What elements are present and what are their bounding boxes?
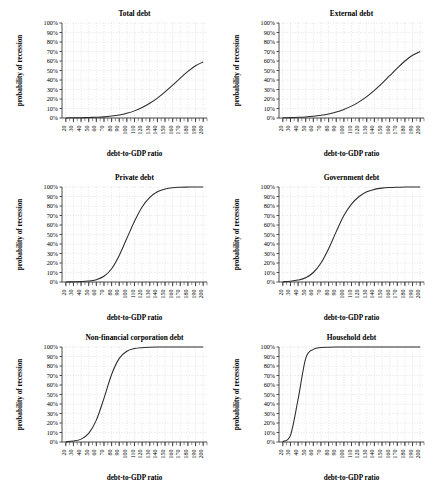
x-tick-label: 180: [183, 126, 189, 135]
x-tick-label: 40: [293, 126, 299, 132]
x-tick-label: 120: [354, 126, 360, 135]
x-tick-label: 30: [285, 126, 291, 132]
y-tick-label: 70%: [47, 372, 58, 379]
x-tick-label: 130: [362, 290, 368, 299]
y-tick-label: 20%: [264, 259, 275, 266]
y-tick-label: 40%: [264, 400, 275, 407]
x-tick-label: 30: [68, 290, 74, 296]
x-tick-label: 140: [152, 290, 158, 299]
x-tick-label: 130: [362, 126, 368, 135]
y-tick-label: 60%: [264, 57, 275, 64]
y-tick-label: 40%: [47, 76, 58, 83]
x-tick-label: 190: [408, 126, 414, 135]
x-tick-label: 60: [308, 450, 314, 456]
y-tick-label: 40%: [47, 240, 58, 247]
x-tick-label: 30: [285, 290, 291, 296]
x-tick-label: 70: [316, 290, 322, 296]
x-tick-label: 130: [362, 450, 368, 459]
x-tick-label: 20: [61, 126, 67, 132]
x-axis-title: debt-to-GDP ratio: [107, 314, 163, 322]
x-tick-label: 20: [278, 290, 284, 296]
y-tick-label: 20%: [264, 419, 275, 426]
x-tick-label: 110: [130, 290, 136, 299]
y-tick-label: 70%: [47, 212, 58, 219]
y-tick-label: 100%: [44, 343, 58, 350]
x-tick-label: 80: [107, 450, 113, 456]
x-tick-label: 60: [308, 126, 314, 132]
panel-title: Non-financial corporation debt: [85, 333, 184, 342]
x-tick-label: 70: [99, 126, 105, 132]
x-tick-label: 100: [339, 450, 345, 459]
x-tick-label: 80: [324, 126, 330, 132]
x-tick-label: 40: [76, 126, 82, 132]
y-tick-label: 40%: [47, 400, 58, 407]
x-axis-title: debt-to-GDP ratio: [324, 474, 380, 482]
y-tick-label: 20%: [47, 259, 58, 266]
y-tick-label: 60%: [264, 381, 275, 388]
x-tick-label: 60: [91, 450, 97, 456]
x-tick-label: 160: [385, 290, 391, 299]
x-tick-label: 100: [339, 290, 345, 299]
x-tick-label: 170: [392, 290, 398, 299]
x-tick-label: 170: [392, 126, 398, 135]
y-tick-label: 10%: [264, 269, 275, 276]
y-tick-label: 60%: [264, 221, 275, 228]
y-axis-title: probability of recession: [16, 35, 24, 107]
y-tick-label: 30%: [264, 250, 275, 257]
y-tick-label: 30%: [47, 410, 58, 417]
x-tick-label: 190: [408, 290, 414, 299]
y-tick-label: 60%: [47, 221, 58, 228]
x-tick-label: 190: [408, 450, 414, 459]
y-tick-label: 0%: [50, 114, 58, 121]
x-tick-label: 70: [99, 450, 105, 456]
x-tick-label: 40: [76, 450, 82, 456]
x-tick-label: 150: [377, 126, 383, 135]
x-tick-label: 200: [415, 290, 421, 299]
chart-panel: 0%10%20%30%40%50%60%70%80%90%100%2030405…: [0, 324, 217, 492]
x-tick-label: 150: [377, 450, 383, 459]
y-tick-label: 20%: [47, 419, 58, 426]
x-tick-label: 30: [68, 450, 74, 456]
x-tick-label: 30: [285, 450, 291, 456]
x-tick-label: 170: [175, 126, 181, 135]
x-tick-label: 180: [183, 450, 189, 459]
y-tick-label: 90%: [47, 29, 58, 36]
x-tick-label: 160: [168, 126, 174, 135]
x-tick-label: 50: [84, 450, 90, 456]
y-tick-label: 100%: [261, 343, 275, 350]
y-tick-label: 0%: [267, 114, 275, 121]
x-tick-label: 90: [114, 126, 120, 132]
x-tick-label: 90: [331, 126, 337, 132]
y-tick-label: 30%: [264, 410, 275, 417]
x-tick-label: 50: [301, 126, 307, 132]
x-tick-label: 200: [198, 126, 204, 135]
y-tick-label: 10%: [47, 429, 58, 436]
y-tick-label: 30%: [47, 86, 58, 93]
x-tick-label: 40: [293, 290, 299, 296]
y-tick-label: 30%: [47, 250, 58, 257]
y-tick-label: 90%: [264, 29, 275, 36]
y-tick-label: 100%: [44, 19, 58, 26]
x-tick-label: 30: [68, 126, 74, 132]
y-tick-label: 70%: [264, 212, 275, 219]
x-tick-label: 160: [385, 126, 391, 135]
x-tick-label: 190: [191, 450, 197, 459]
x-tick-label: 180: [183, 290, 189, 299]
y-tick-label: 80%: [47, 38, 58, 45]
x-tick-label: 150: [160, 450, 166, 459]
x-tick-label: 80: [324, 450, 330, 456]
x-tick-label: 190: [191, 126, 197, 135]
x-tick-label: 180: [400, 290, 406, 299]
y-tick-label: 30%: [264, 86, 275, 93]
x-tick-label: 70: [99, 290, 105, 296]
x-tick-label: 150: [160, 290, 166, 299]
y-axis-title: probability of recession: [16, 359, 24, 431]
y-tick-label: 10%: [264, 429, 275, 436]
x-tick-label: 90: [114, 290, 120, 296]
x-tick-label: 60: [91, 290, 97, 296]
x-axis-title: debt-to-GDP ratio: [107, 474, 163, 482]
y-tick-label: 80%: [264, 362, 275, 369]
x-tick-label: 70: [316, 126, 322, 132]
x-tick-label: 80: [107, 290, 113, 296]
x-tick-label: 180: [400, 450, 406, 459]
